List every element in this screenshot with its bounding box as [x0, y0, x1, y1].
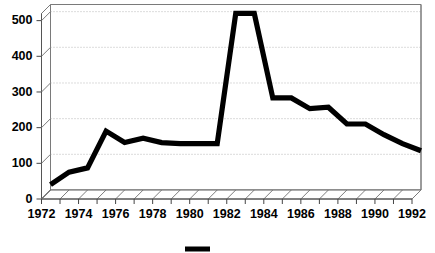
- legend: [185, 247, 210, 252]
- x-axis-ticks: 1972197419761978198019821984198619881990…: [28, 199, 426, 221]
- line-chart: 0100200300400500197219741976197819801982…: [0, 0, 435, 253]
- y-tick-label: 400: [12, 49, 33, 63]
- plot-left-wall: [42, 5, 51, 200]
- x-tick-label: 1972: [28, 207, 56, 221]
- y-tick-label: 300: [12, 85, 33, 99]
- x-tick-label: 1986: [287, 207, 315, 221]
- x-tick-label: 1988: [324, 207, 352, 221]
- plot-back-wall: [51, 5, 422, 191]
- y-tick-label: 100: [12, 156, 33, 170]
- y-tick-label: 200: [12, 120, 33, 134]
- chart-container: 0100200300400500197219741976197819801982…: [0, 0, 435, 253]
- axis-floor: [42, 190, 422, 199]
- y-tick-label: 0: [26, 192, 33, 206]
- x-tick-label: 1992: [398, 207, 426, 221]
- y-tick-label: 500: [12, 13, 33, 27]
- legend-swatch: [185, 247, 210, 252]
- x-tick-label: 1980: [176, 207, 204, 221]
- x-tick-label: 1982: [213, 207, 241, 221]
- x-tick-label: 1974: [65, 207, 93, 221]
- x-tick-label: 1990: [361, 207, 389, 221]
- x-tick-label: 1984: [250, 207, 278, 221]
- x-tick-label: 1976: [102, 207, 130, 221]
- x-tick-label: 1978: [139, 207, 167, 221]
